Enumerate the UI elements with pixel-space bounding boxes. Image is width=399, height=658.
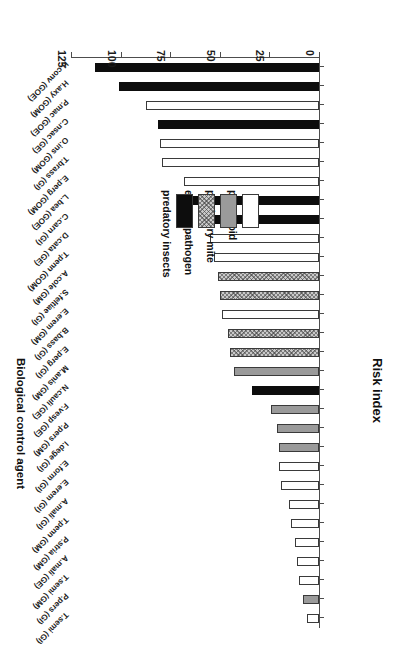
value-tick: [170, 52, 171, 57]
category-tick: [320, 485, 324, 486]
value-tick-label: 50: [205, 50, 217, 62]
category-tick: [320, 67, 324, 68]
bar: [281, 481, 319, 490]
bar: [218, 272, 319, 281]
bar: [95, 63, 319, 72]
category-tick: [320, 504, 324, 505]
legend-swatch: [198, 194, 215, 228]
bar: [279, 462, 319, 471]
category-tick: [320, 561, 324, 562]
legend-swatch: [242, 194, 259, 228]
bar: [297, 557, 319, 566]
bar: [303, 595, 319, 604]
value-tick-label: 25: [254, 50, 266, 62]
bar: [222, 310, 319, 319]
category-tick: [320, 580, 324, 581]
category-tick: [320, 333, 324, 334]
chart-legend: parasitoidpredatory miteentomopathogenpr…: [109, 78, 259, 228]
category-tick: [320, 181, 324, 182]
bar: [295, 538, 319, 547]
category-tick: [320, 143, 324, 144]
bar: [230, 348, 319, 357]
category-tick: [320, 352, 324, 353]
bar: [299, 576, 319, 585]
bar: [214, 253, 319, 262]
category-tick: [320, 599, 324, 600]
bar: [289, 500, 319, 509]
value-tick: [121, 52, 122, 57]
category-tick: [320, 238, 324, 239]
risk-index-bar-chart: 0255075100125 T.semi (GI)P.pers (GI)T.se…: [0, 0, 399, 658]
value-tick-label: 0: [304, 50, 316, 56]
category-tick: [320, 409, 324, 410]
bar: [234, 367, 319, 376]
bar: [277, 424, 319, 433]
figure-rotation-wrapper: 0255075100125 T.semi (GI)P.pers (GI)T.se…: [0, 0, 399, 658]
category-tick: [320, 124, 324, 125]
category-tick: [320, 162, 324, 163]
value-tick: [71, 52, 72, 57]
value-tick-label: 75: [155, 50, 167, 62]
category-tick: [320, 542, 324, 543]
category-tick: [320, 523, 324, 524]
value-tick: [319, 52, 320, 57]
category-tick: [320, 618, 324, 619]
bar: [279, 443, 319, 452]
category-tick: [320, 200, 324, 201]
bar: [228, 329, 319, 338]
value-tick: [220, 52, 221, 57]
value-tick-label: 100: [106, 50, 118, 68]
category-axis-title: Biological control agent: [15, 358, 27, 489]
category-tick: [320, 105, 324, 106]
bar: [252, 386, 319, 395]
category-tick: [320, 257, 324, 258]
legend-swatch: [220, 194, 237, 228]
category-tick: [320, 219, 324, 220]
bar: [307, 614, 319, 623]
bar: [271, 405, 319, 414]
legend-label: predatory insects: [161, 190, 173, 278]
bar: [220, 291, 319, 300]
bar: [291, 519, 319, 528]
category-tick: [320, 371, 324, 372]
category-tick: [320, 86, 324, 87]
category-tick: [320, 295, 324, 296]
category-tick: [320, 390, 324, 391]
category-tick: [320, 314, 324, 315]
category-tick: [320, 466, 324, 467]
value-tick: [269, 52, 270, 57]
legend-swatch: [176, 194, 193, 228]
category-tick: [320, 276, 324, 277]
value-axis-title: Risk index: [370, 358, 385, 423]
category-tick: [320, 447, 324, 448]
category-tick: [320, 428, 324, 429]
